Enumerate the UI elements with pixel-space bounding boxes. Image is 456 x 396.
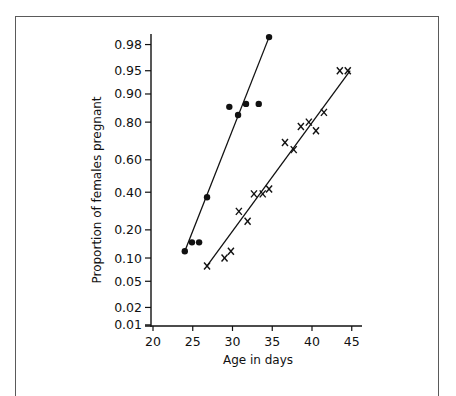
data-point-cross <box>245 218 251 225</box>
data-point-cross <box>337 67 343 74</box>
plot-area <box>182 34 351 270</box>
data-point-cross <box>282 139 288 146</box>
y-tick-label: 0.05 <box>114 274 142 289</box>
y-tick-label: 0.60 <box>114 152 142 167</box>
data-point-cross <box>204 262 210 269</box>
y-tick-label: 0.02 <box>114 300 142 315</box>
data-point-dot <box>235 112 241 118</box>
fit-line-dots <box>185 37 269 251</box>
x-tick-label: 20 <box>145 334 161 349</box>
axes: 0.010.020.050.100.200.400.600.800.900.95… <box>114 34 362 349</box>
fit-line-crosses <box>207 71 350 266</box>
x-axis-title: Age in days <box>223 353 293 367</box>
y-tick-label: 0.95 <box>114 63 142 78</box>
data-point-cross <box>298 123 304 130</box>
data-point-dot <box>243 101 249 107</box>
series-dots <box>182 34 273 254</box>
series-crosses <box>204 67 351 269</box>
x-tick-label: 40 <box>304 334 320 349</box>
data-point-dot <box>189 239 195 245</box>
y-tick-label: 0.80 <box>114 115 142 130</box>
data-point-cross <box>306 119 312 126</box>
data-point-cross <box>321 109 327 116</box>
data-point-dot <box>196 239 202 245</box>
y-tick-label: 0.20 <box>114 222 142 237</box>
x-tick-label: 25 <box>185 334 201 349</box>
y-tick-label: 0.98 <box>114 37 142 52</box>
y-tick-label: 0.01 <box>114 317 142 332</box>
data-point-cross <box>236 208 242 215</box>
data-point-dot <box>204 194 210 200</box>
data-point-dot <box>266 34 272 40</box>
data-point-cross <box>222 255 228 262</box>
data-point-cross <box>251 190 257 197</box>
y-tick-label: 0.90 <box>114 86 142 101</box>
data-point-cross <box>228 248 234 255</box>
x-tick-label: 45 <box>344 334 360 349</box>
data-point-cross <box>266 185 272 192</box>
data-point-dot <box>256 101 262 107</box>
y-axis-title: Proportion of females pregnant <box>90 96 104 283</box>
data-point-dot <box>182 248 188 254</box>
y-tick-label: 0.10 <box>114 251 142 266</box>
x-tick-label: 30 <box>225 334 241 349</box>
data-point-cross <box>313 127 319 134</box>
y-tick-label: 0.40 <box>114 185 142 200</box>
data-point-dot <box>226 104 232 110</box>
x-tick-label: 35 <box>264 334 280 349</box>
